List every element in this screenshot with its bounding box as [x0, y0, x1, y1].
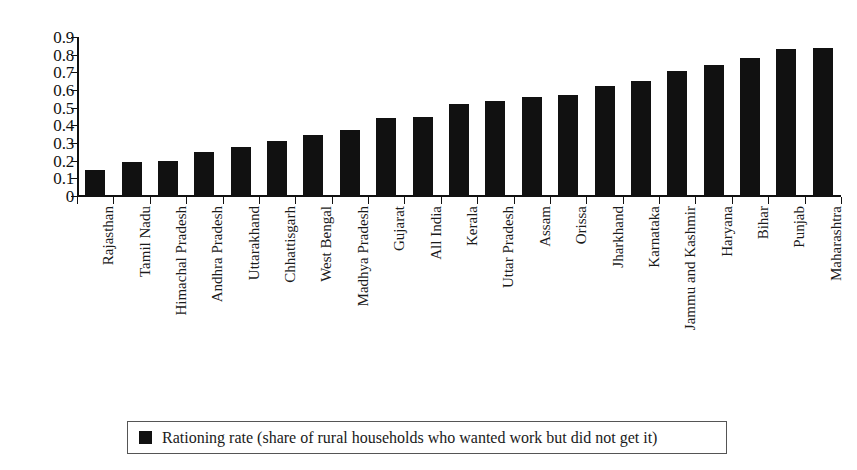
bar	[194, 152, 214, 196]
y-axis-tick-label: 0.9	[30, 29, 74, 46]
x-axis-tick-label: Andhra Pradesh	[210, 206, 225, 302]
bar	[122, 162, 142, 196]
y-axis-tick-label: 0.4	[30, 117, 74, 134]
y-axis-tick-label: 0.2	[30, 153, 74, 170]
bar	[303, 135, 323, 196]
bar	[158, 161, 178, 196]
bar	[231, 147, 251, 196]
bar-series-rationing-rate	[77, 37, 841, 196]
x-axis-tick-mark	[841, 197, 842, 204]
x-axis-tick-label: Maharashtra	[829, 206, 844, 281]
bar	[667, 71, 687, 196]
bar	[449, 104, 469, 196]
x-axis-category-labels: RajasthanTamil NaduHimachal PradeshAndhr…	[77, 200, 841, 400]
x-axis-tick-label: Uttar Pradesh	[501, 206, 516, 288]
x-axis-tick-label: West Bengal	[319, 206, 334, 282]
y-axis-tick-label: 0.3	[30, 135, 74, 152]
x-axis-tick-label: Haryana	[720, 206, 735, 257]
x-axis-tick-label: Rajasthan	[101, 206, 116, 265]
x-axis-tick-label: Himachal Pradesh	[174, 206, 189, 316]
x-axis-tick-label: Assam	[538, 206, 553, 247]
bar	[595, 86, 615, 196]
bar	[267, 141, 287, 196]
x-axis-tick-label: Karnataka	[647, 206, 662, 268]
legend-label-rationing-rate: Rationing rate (share of rural household…	[162, 429, 657, 447]
bar	[340, 130, 360, 196]
bar	[776, 49, 796, 196]
x-axis-tick-label: Kerala	[465, 206, 480, 246]
x-axis-tick-label: All India	[429, 206, 444, 260]
x-axis-tick-label: Tamil Nadu	[138, 206, 153, 277]
y-axis-tick-label: 0.6	[30, 82, 74, 99]
x-axis-tick-label: Jammu and Kashmir	[683, 206, 698, 330]
y-axis-tick-label: 0.5	[30, 100, 74, 117]
x-axis-tick-label: Punjab	[792, 206, 807, 248]
y-axis-tick-labels: 0.90.80.70.60.50.40.30.20.10	[30, 28, 74, 200]
bar	[376, 118, 396, 196]
bar	[485, 101, 505, 196]
bar	[522, 97, 542, 196]
x-axis-tick-label: Uttarakhand	[247, 206, 262, 280]
y-axis-tick-label: 0.1	[30, 170, 74, 187]
bar	[704, 65, 724, 196]
y-axis-tick-label: 0	[30, 188, 74, 205]
x-axis-tick-label: Jharkhand	[611, 206, 626, 268]
bar	[813, 48, 833, 196]
chart-legend: Rationing rate (share of rural household…	[127, 421, 727, 454]
bar	[85, 170, 105, 197]
x-axis-tick-label: Orissa	[574, 206, 589, 244]
bar	[558, 95, 578, 196]
bar	[740, 58, 760, 196]
y-axis-tick-label: 0.8	[30, 47, 74, 64]
x-axis-tick-label: Madhya Pradesh	[356, 206, 371, 306]
x-axis-tick-label: Gujarat	[392, 206, 407, 251]
x-axis-tick-label: Bihar	[756, 206, 771, 239]
bar	[413, 117, 433, 196]
x-axis-tick-label: Chhattisgarh	[283, 206, 298, 283]
legend-swatch-rationing-rate	[139, 431, 152, 444]
y-axis-tick-label: 0.7	[30, 64, 74, 81]
bar	[631, 81, 651, 196]
bar-chart-figure: 0.90.80.70.60.50.40.30.20.10 RajasthanTa…	[0, 0, 857, 470]
